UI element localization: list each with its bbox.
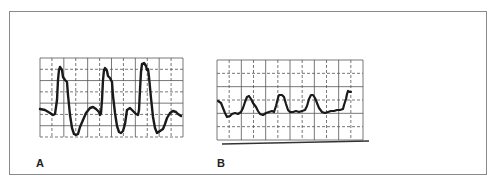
panel-b-baseline <box>222 141 369 144</box>
panel-a-waveform <box>40 63 181 135</box>
panel-a-label: A <box>36 157 44 169</box>
panel-b-label: B <box>217 157 225 169</box>
waveform-figure <box>0 0 497 192</box>
panel-b-grid <box>217 60 363 140</box>
